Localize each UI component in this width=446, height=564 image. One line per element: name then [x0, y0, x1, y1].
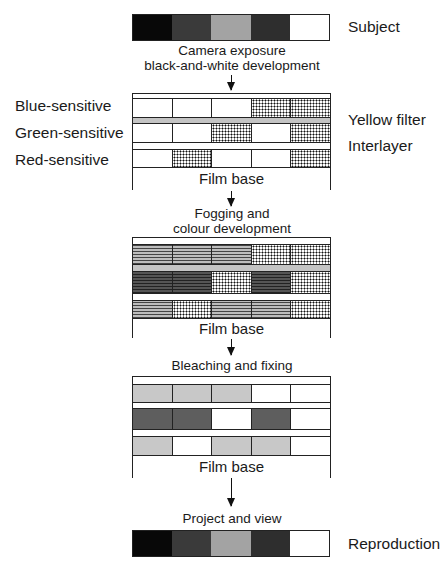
- layer-cell-white: [212, 409, 252, 429]
- stage3-green-layer: [132, 408, 331, 430]
- step4-line1: Project and view: [132, 511, 332, 526]
- layer-cell-dark: [252, 409, 292, 429]
- film-stage3: Film base: [132, 376, 331, 478]
- red-sensitive-label: Red-sensitive: [15, 152, 109, 168]
- layer-cell-white: [173, 437, 213, 455]
- layer-cell-white: [132, 124, 173, 142]
- layer-cell-dot: [212, 272, 252, 293]
- subject-label: Subject: [348, 19, 400, 35]
- layer-cell-white: [252, 124, 292, 142]
- film-stage2: Film base: [132, 237, 331, 338]
- stage2-blue-layer: [132, 244, 331, 265]
- layer-cell-darkdash: [252, 272, 292, 293]
- film-stage1: Film base: [132, 93, 331, 190]
- stage3-red-layer: [132, 436, 331, 456]
- stage3-film-base-label: Film base: [132, 458, 331, 475]
- subject-patch: [133, 15, 172, 40]
- reproduction-patch: [133, 531, 172, 556]
- layer-cell-dash: [132, 245, 173, 264]
- yellow-filter-label: Yellow filter: [348, 112, 426, 128]
- layer-cell-white: [252, 385, 292, 402]
- arrow-down-icon: [231, 75, 232, 90]
- layer-cell-light: [173, 385, 213, 402]
- subject-patch: [211, 15, 250, 40]
- layer-cell-light: [212, 437, 252, 455]
- layer-cell-light: [132, 437, 173, 455]
- layer-cell-white: [132, 99, 173, 117]
- layer-cell-dash: [212, 245, 252, 264]
- layer-cell-dash: [252, 301, 292, 318]
- reproduction-label: Reproduction: [348, 536, 440, 552]
- layer-cell-dot: [252, 245, 292, 264]
- blue-sensitive-label: Blue-sensitive: [15, 98, 112, 114]
- layer-cell-darkdash: [132, 272, 173, 293]
- stage1-red-layer: [132, 149, 331, 168]
- arrow-down-icon: [231, 478, 232, 506]
- step3-label: Bleaching and fixing: [132, 358, 332, 373]
- layer-cell-white: [212, 99, 252, 117]
- layer-cell-dot: [291, 245, 331, 264]
- layer-cell-dash: [173, 245, 213, 264]
- arrow-down-icon: [231, 339, 232, 355]
- layer-cell-dot: [291, 150, 331, 167]
- subject-patch: [290, 15, 329, 40]
- reproduction-patch: [211, 531, 250, 556]
- layer-cell-light: [252, 437, 292, 455]
- layer-cell-light: [212, 385, 252, 402]
- layer-cell-white: [252, 150, 292, 167]
- step2-line2: colour development: [132, 221, 332, 236]
- stage1-green-layer: [132, 123, 331, 143]
- stage3-blue-layer: [132, 384, 331, 403]
- step3-line1: Bleaching and fixing: [132, 358, 332, 373]
- layer-cell-white: [212, 150, 252, 167]
- stage2-green-layer: [132, 271, 331, 294]
- interlayer-label: Interlayer: [348, 138, 413, 154]
- layer-cell-white: [173, 124, 213, 142]
- reproduction-patch: [172, 531, 211, 556]
- reproduction-patch: [251, 531, 290, 556]
- step1-line2: black-and-white development: [132, 58, 332, 73]
- layer-cell-dash: [212, 301, 252, 318]
- layer-cell-dark: [132, 409, 173, 429]
- layer-cell-white: [291, 437, 331, 455]
- layer-cell-dot: [212, 124, 252, 142]
- layer-cell-light: [132, 385, 173, 402]
- reproduction-patch: [290, 531, 329, 556]
- subject-patch: [172, 15, 211, 40]
- step4-label: Project and view: [132, 511, 332, 526]
- step1-line1: Camera exposure: [132, 43, 332, 58]
- layer-cell-dot: [173, 301, 213, 318]
- layer-cell-white: [132, 150, 173, 167]
- subject-patch: [251, 15, 290, 40]
- layer-cell-dot: [291, 124, 331, 142]
- layer-cell-white: [173, 99, 213, 117]
- layer-cell-darkdash: [173, 272, 213, 293]
- green-sensitive-label: Green-sensitive: [15, 125, 124, 141]
- layer-cell-dark: [173, 409, 213, 429]
- reproduction-bar: [132, 530, 330, 557]
- stage1-film-base-label: Film base: [132, 170, 331, 187]
- layer-cell-dot: [291, 272, 331, 293]
- layer-cell-white: [291, 409, 331, 429]
- layer-cell-dot: [252, 99, 292, 117]
- layer-cell-dot: [291, 99, 331, 117]
- layer-cell-dash: [132, 301, 173, 318]
- stage2-film-base-label: Film base: [132, 320, 331, 337]
- step1-label: Camera exposure black-and-white developm…: [132, 43, 332, 73]
- layer-cell-dot: [173, 150, 213, 167]
- stage1-blue-layer: [132, 98, 331, 118]
- subject-bar: [132, 14, 330, 41]
- layer-cell-dot: [291, 301, 331, 318]
- layer-cell-white: [291, 385, 331, 402]
- step2-line1: Fogging and: [132, 206, 332, 221]
- arrow-down-icon: [231, 191, 232, 206]
- stage2-red-layer: [132, 300, 331, 319]
- step2-label: Fogging and colour development: [132, 206, 332, 236]
